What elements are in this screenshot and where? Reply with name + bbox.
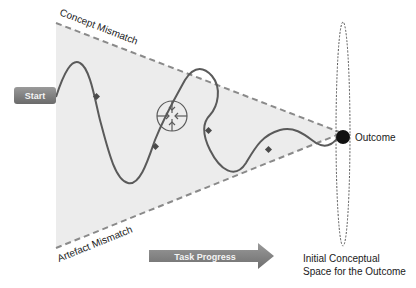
conceptual-space-label-line1: Initial Conceptual: [303, 253, 380, 264]
conceptual-space-label-line2: Space for the Outcome: [303, 266, 406, 277]
outcome-label: Outcome: [355, 132, 396, 143]
start-label: Start: [25, 91, 46, 101]
task-progress-arrow: Task Progress: [149, 243, 274, 269]
diagram-canvas: Start Outcome Concept Mismatch Artefact …: [0, 0, 416, 288]
conceptual-funnel: [56, 23, 342, 248]
task-progress-label: Task Progress: [174, 252, 235, 262]
start-node: Start: [14, 87, 56, 104]
outcome-dot: [336, 130, 350, 144]
